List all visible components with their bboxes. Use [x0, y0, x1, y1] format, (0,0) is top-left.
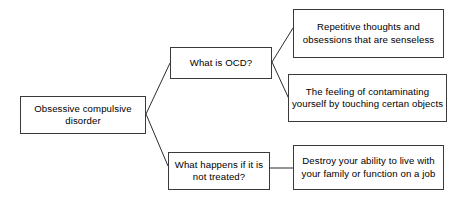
node-question-2-label: What happens if it is not treated? [171, 159, 267, 183]
connector-root-to-question-2 [146, 114, 168, 166]
node-answer-1-label: Repetitive thoughts and obsessions that … [296, 21, 441, 45]
node-question-1-label: What is OCD? [173, 57, 269, 69]
node-obsessive-compulsive-disorder[interactable]: Obsessive compulsive disorder [20, 96, 146, 134]
connector-question-1-to-answer-2 [272, 62, 289, 99]
node-what-is-ocd[interactable]: What is OCD? [170, 47, 272, 79]
connector-root-to-question-1 [146, 63, 170, 114]
node-what-happens-if-not-treated[interactable]: What happens if it is not treated? [168, 152, 270, 190]
node-destroy-your-ability[interactable]: Destroy your ability to live with your f… [293, 145, 444, 190]
node-feeling-of-contaminating[interactable]: The feeling of contaminating yourself by… [288, 74, 447, 122]
node-repetitive-thoughts[interactable]: Repetitive thoughts and obsessions that … [293, 9, 444, 58]
connector-question-1-to-answer-1 [272, 28, 293, 62]
node-answer-2-label: The feeling of contaminating yourself by… [291, 86, 444, 110]
node-answer-3-label: Destroy your ability to live with your f… [296, 155, 441, 179]
node-root-label: Obsessive compulsive disorder [23, 103, 143, 127]
concept-map-diagram: Obsessive compulsive disorder What is OC… [0, 0, 463, 207]
